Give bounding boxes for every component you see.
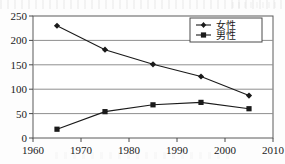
x-tick-label-2010: 2010 (262, 144, 285, 156)
y-axis-ticks (29, 16, 33, 138)
line-chart: 250 200 150 100 50 0 1960 1970 1980 1990… (0, 0, 285, 164)
square-marker-icon (102, 109, 107, 114)
y-tick-label-150: 150 (11, 59, 28, 71)
chart-legend: 女性 男性 (190, 18, 262, 42)
square-marker-icon (150, 102, 155, 107)
x-tick-label-1970: 1970 (70, 144, 93, 156)
x-tick-label-1960: 1960 (22, 144, 45, 156)
y-tick-label-200: 200 (11, 34, 28, 46)
y-tick-label-250: 250 (11, 10, 28, 22)
chart-screenshot: 250 200 150 100 50 0 1960 1970 1980 1990… (0, 0, 285, 164)
x-tick-label-1980: 1980 (118, 144, 141, 156)
square-marker-icon (54, 127, 59, 132)
square-marker-icon (246, 106, 251, 111)
x-tick-label-2000: 2000 (214, 144, 237, 156)
x-axis-labels: 1960 1970 1980 1990 2000 2010 (22, 144, 285, 156)
square-marker-icon (198, 100, 203, 105)
y-tick-label-50: 50 (16, 108, 28, 120)
legend-label-male: 男性 (216, 29, 236, 41)
x-tick-label-1990: 1990 (166, 144, 189, 156)
square-marker-icon (201, 32, 206, 37)
y-axis-labels: 250 200 150 100 50 0 (11, 10, 28, 144)
y-tick-label-100: 100 (11, 83, 28, 95)
y-tick-label-0: 0 (22, 132, 28, 144)
x-axis-ticks (33, 138, 273, 142)
